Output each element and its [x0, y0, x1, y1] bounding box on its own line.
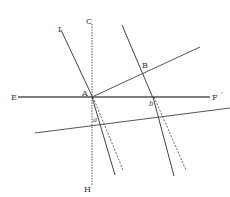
line-lower-oblique — [35, 108, 230, 133]
label-a-lower: a — [93, 116, 97, 124]
label-h: H — [84, 185, 91, 194]
ray-a-solid — [92, 97, 115, 175]
line-through-b — [122, 25, 153, 98]
label-i: I — [58, 25, 61, 34]
label-b-lower: b — [149, 100, 154, 108]
geometric-figure: E F ' C H I A B a b — [0, 0, 230, 197]
label-e: E — [11, 93, 17, 102]
line-a-upper-right — [92, 47, 200, 97]
label-c: C — [86, 17, 92, 26]
label-b-upper: B — [142, 61, 148, 70]
ray-a-dashed — [93, 97, 123, 170]
line-i-a — [61, 30, 93, 98]
diagram-canvas: E F ' C H I A B a b — [0, 0, 230, 197]
label-a-upper: A — [81, 89, 88, 98]
label-f-prime: ' — [221, 91, 223, 99]
label-f: F — [212, 93, 218, 102]
